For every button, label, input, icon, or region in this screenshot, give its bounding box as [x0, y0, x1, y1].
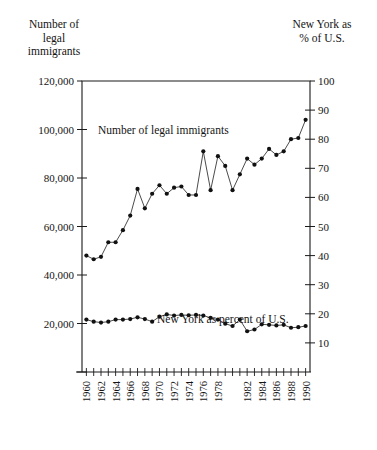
data-point — [289, 137, 293, 141]
left-tick-label: 60,000 — [44, 221, 75, 233]
plot-area: 20,00040,00060,00080,000100,000120,000 1… — [0, 0, 377, 450]
right-tick-label: 10 — [318, 337, 330, 349]
data-series-group — [84, 118, 307, 334]
data-point — [121, 318, 125, 322]
data-point — [187, 193, 191, 197]
data-point — [84, 318, 88, 322]
x-tick-label: 1984 — [257, 380, 268, 402]
x-tick-label: 1974 — [184, 380, 195, 402]
x-tick-label: 1964 — [111, 380, 122, 402]
x-tick-label: 1970 — [154, 381, 165, 402]
data-point — [99, 255, 103, 259]
data-point — [252, 163, 256, 167]
data-point — [128, 213, 132, 217]
x-tick-label: 1976 — [198, 381, 209, 402]
data-point — [135, 187, 139, 191]
data-point — [92, 320, 96, 324]
data-point — [114, 318, 118, 322]
data-point — [150, 192, 154, 196]
x-tick-label: 1982 — [242, 381, 253, 402]
right-tick-label: 40 — [318, 250, 330, 262]
right-tick-label: 100 — [318, 75, 335, 87]
x-tick-label: 1962 — [96, 381, 107, 402]
data-point — [245, 157, 249, 161]
data-point — [99, 320, 103, 324]
data-point — [106, 320, 110, 324]
data-point — [245, 329, 249, 333]
data-point — [289, 326, 293, 330]
x-tick-label: 1988 — [286, 381, 297, 402]
left-tick-label: 80,000 — [44, 172, 75, 184]
x-tick-label: 1960 — [81, 381, 92, 402]
left-tick-label: 100,000 — [38, 124, 74, 136]
immigration-chart: Number of legal immigrants New York as %… — [0, 0, 377, 450]
data-point — [238, 172, 242, 176]
series-line-0 — [86, 120, 305, 259]
x-tick-label: 1986 — [271, 381, 282, 402]
left-axis-ticks: 20,00040,00060,00080,000100,000120,000 — [38, 75, 87, 372]
data-point — [282, 149, 286, 153]
data-point — [84, 254, 88, 258]
data-point — [194, 193, 198, 197]
left-tick-label: 120,000 — [38, 75, 74, 87]
right-tick-label: 80 — [318, 133, 330, 145]
lower-series-annotation: New York as percent of U.S. — [157, 313, 289, 326]
data-point — [143, 317, 147, 321]
data-point — [92, 257, 96, 261]
data-point — [267, 147, 271, 151]
upper-series-annotation: Number of legal immigrants — [98, 124, 229, 137]
x-tick-label: 1978 — [213, 381, 224, 402]
x-tick-label: 1990 — [301, 381, 312, 402]
data-point — [304, 324, 308, 328]
data-point — [230, 188, 234, 192]
right-tick-label: 50 — [318, 221, 330, 233]
right-tick-label: 90 — [318, 104, 330, 116]
right-tick-label: 70 — [318, 162, 330, 174]
right-tick-label: 20 — [318, 308, 330, 320]
data-point — [157, 183, 161, 187]
data-point — [106, 240, 110, 244]
left-tick-label: 20,000 — [44, 318, 75, 330]
data-point — [114, 240, 118, 244]
data-point — [201, 149, 205, 153]
data-point — [260, 157, 264, 161]
data-point — [252, 327, 256, 331]
data-point — [179, 184, 183, 188]
x-tick-label: 1966 — [125, 381, 136, 402]
right-tick-label: 60 — [318, 191, 330, 203]
data-point — [304, 118, 308, 122]
data-point — [165, 192, 169, 196]
data-point — [135, 315, 139, 319]
x-tick-label: 1972 — [169, 381, 180, 402]
data-point — [172, 186, 176, 190]
x-tick-label: 1968 — [140, 381, 151, 402]
data-point — [274, 153, 278, 157]
right-tick-label: 30 — [318, 279, 330, 291]
x-axis-ticks: 1960196219641966196819701972197419761978… — [76, 368, 312, 402]
data-point — [209, 188, 213, 192]
left-tick-label: 40,000 — [44, 269, 75, 281]
data-point — [296, 325, 300, 329]
data-point — [128, 317, 132, 321]
data-point — [150, 320, 154, 324]
data-point — [121, 228, 125, 232]
data-point — [216, 154, 220, 158]
data-point — [143, 206, 147, 210]
data-point — [223, 164, 227, 168]
data-point — [296, 136, 300, 140]
